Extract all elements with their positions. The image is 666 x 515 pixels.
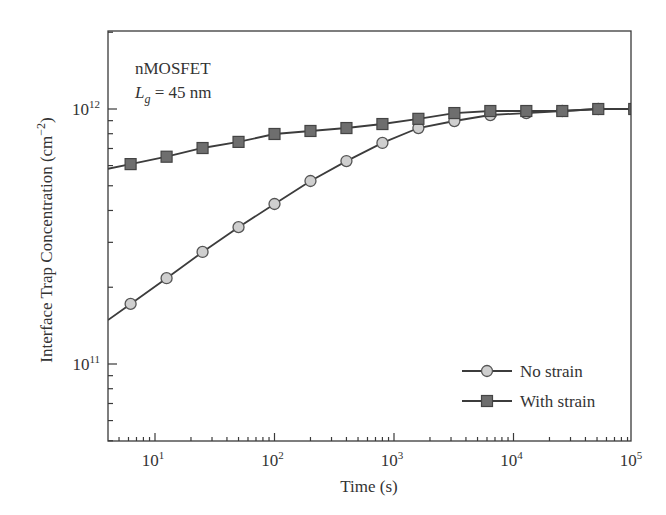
circle-marker-icon [197,246,208,257]
legend-label: No strain [520,362,583,381]
circle-marker-icon [305,175,316,186]
square-marker-icon [413,113,424,124]
y-tick-label: 1011 [72,353,100,374]
chart-canvas: Interface Trap Concentration (cm−2) Time… [0,0,666,515]
circle-marker-icon [161,273,172,284]
annotation: nMOSFET Lg = 45 nm [134,59,212,106]
annotation-gate-length: Lg = 45 nm [134,83,212,106]
square-marker-icon [482,396,493,407]
x-tick-label: 104 [500,449,523,470]
series-no-strain [108,104,640,321]
square-marker-icon [485,106,496,117]
annotation-device: nMOSFET [135,59,211,78]
square-marker-icon [233,136,244,147]
series-line [108,109,634,169]
y-tick-label: 1012 [72,98,100,119]
legend-item-no-strain: No strain [462,362,583,381]
circle-marker-icon [341,156,352,167]
series-line [108,109,634,320]
square-marker-icon [593,104,604,115]
square-marker-icon [161,151,172,162]
legend-item-with-strain: With strain [462,392,596,411]
x-axis-label: Time (s) [340,477,397,496]
x-tick-label: 101 [142,449,165,470]
series-with-strain [108,104,640,170]
square-marker-icon [449,108,460,119]
legend: No strain With strain [462,362,596,411]
x-tick-label: 103 [381,449,404,470]
square-marker-icon [197,143,208,154]
circle-marker-icon [125,298,136,309]
circle-marker-icon [233,222,244,233]
circle-marker-icon [377,137,388,148]
circle-marker-icon [482,366,493,377]
square-marker-icon [269,128,280,139]
square-marker-icon [305,125,316,136]
square-marker-icon [125,159,136,170]
legend-label: With strain [520,392,596,411]
circle-marker-icon [269,199,280,210]
y-axis-label: Interface Trap Concentration (cm−2) [34,117,56,363]
x-tick-label: 102 [261,449,284,470]
square-marker-icon [377,119,388,130]
square-marker-icon [341,123,352,134]
svg-text:Interface Trap Concentration (: Interface Trap Concentration (cm−2) [34,117,56,363]
x-tick-label: 105 [620,449,643,470]
square-marker-icon [521,106,532,117]
square-marker-icon [557,106,568,117]
chart: Interface Trap Concentration (cm−2) Time… [0,0,666,515]
plot-series [108,104,640,321]
